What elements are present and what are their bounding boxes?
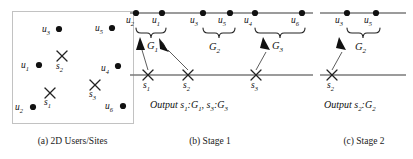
panel-c-caption: (c) Stage 2 <box>315 136 413 146</box>
label-u1: u1 <box>152 15 160 27</box>
label-s1: s1 <box>44 97 51 109</box>
brace-G3 <box>255 28 305 38</box>
label-u6: u6 <box>291 15 299 27</box>
output-word: Output <box>150 99 178 110</box>
brace-G2 <box>347 28 380 38</box>
output-group-1: G1 <box>191 99 202 110</box>
label-u4: u4 <box>101 63 109 75</box>
arrow-head-s1-to-G1 <box>136 37 145 50</box>
label-u3: u3 <box>190 15 198 27</box>
group-label-G2: G2 <box>355 41 366 55</box>
user-dot-u6 <box>120 103 126 109</box>
user-dot-u4 <box>115 63 121 69</box>
arrow-line-s2-to-G2 <box>332 52 342 70</box>
label-u2: u2 <box>15 102 23 114</box>
brace-G2 <box>203 28 235 38</box>
arrow-head-s3-to-G3 <box>260 37 270 50</box>
label-u3: u3 <box>335 15 343 27</box>
panel-b-braces <box>136 28 305 38</box>
group-label-G3: G3 <box>272 40 283 54</box>
label-s2: s2 <box>56 61 63 73</box>
output-site-1: s2 <box>354 99 361 110</box>
user-dot-u4 <box>252 10 258 16</box>
label-s3: s3 <box>89 89 96 101</box>
user-dot-u6 <box>299 10 305 16</box>
label-u2: u2 <box>126 15 134 27</box>
user-dot-u3 <box>56 26 62 32</box>
user-dot-u5 <box>109 25 115 31</box>
label-s2: s2 <box>327 80 334 92</box>
output-site-2: s3 <box>207 99 214 110</box>
panel-c-arrows <box>332 37 346 70</box>
label-u5: u5 <box>95 23 103 35</box>
brace-G1 <box>136 28 166 38</box>
label-u5: u5 <box>364 15 372 27</box>
output-word: Output <box>324 99 352 110</box>
panel-c-output-text: Output s2:G2 <box>324 99 376 112</box>
user-dot-u2 <box>30 104 36 110</box>
panel-a-caption: (a) 2D Users/Sites <box>0 136 145 146</box>
group-label-G2: G2 <box>209 41 220 55</box>
label-s1: s1 <box>143 80 150 92</box>
user-dot-u5 <box>373 10 379 16</box>
figure-three-panel: u3 u5 u1 u4 u2 u6 s2 s3 s1 (a) 2D Users/… <box>0 0 413 159</box>
arrow-line-s2-to-G1 <box>168 50 188 70</box>
label-u4: u4 <box>244 15 252 27</box>
arrow-line-s3-to-G3 <box>256 52 266 70</box>
user-dot-u3 <box>200 10 206 16</box>
output-site-1: s1 <box>180 99 187 110</box>
label-u5: u5 <box>218 15 226 27</box>
label-s3: s3 <box>251 80 258 92</box>
user-dot-u1 <box>36 62 42 68</box>
output-group-1: G2 <box>365 99 376 110</box>
user-dot-u3 <box>344 10 350 16</box>
group-label-G1: G1 <box>147 40 158 54</box>
label-u6: u6 <box>105 101 113 113</box>
label-u1: u1 <box>21 60 29 72</box>
user-dot-u5 <box>227 10 233 16</box>
panel-b-caption: (b) Stage 1 <box>150 136 270 146</box>
panel-b-output-text: Output s1:G1, s3:G3 <box>150 99 228 112</box>
arrow-head-s2-to-G2 <box>336 37 346 50</box>
output-group-2: G3 <box>217 99 228 110</box>
label-s2: s2 <box>183 80 190 92</box>
panel-c-braces <box>347 28 380 38</box>
label-u3: u3 <box>42 24 50 36</box>
